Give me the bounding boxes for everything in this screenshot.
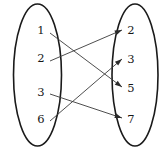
codomain-set-ellipse [112, 4, 158, 146]
codomain-element-labels: 2357 [127, 23, 134, 126]
domain-element-3: 3 [37, 85, 44, 99]
domain-element-1: 1 [37, 23, 44, 37]
arrow-1-to-5-head-icon [115, 81, 122, 87]
arrow-3-to-7 [50, 94, 122, 118]
codomain-element-3: 3 [127, 52, 134, 66]
domain-element-6: 6 [37, 112, 44, 126]
domain-element-labels: 1236 [37, 23, 44, 126]
domain-element-2: 2 [37, 51, 44, 65]
mapping-diagram-canvas: 1236 2357 [0, 0, 161, 151]
mapping-diagram: 1236 2357 [0, 0, 161, 151]
codomain-element-7: 7 [127, 112, 134, 126]
arrow-2-to-2 [50, 30, 122, 61]
codomain-element-2: 2 [127, 23, 134, 37]
codomain-element-5: 5 [127, 81, 134, 95]
